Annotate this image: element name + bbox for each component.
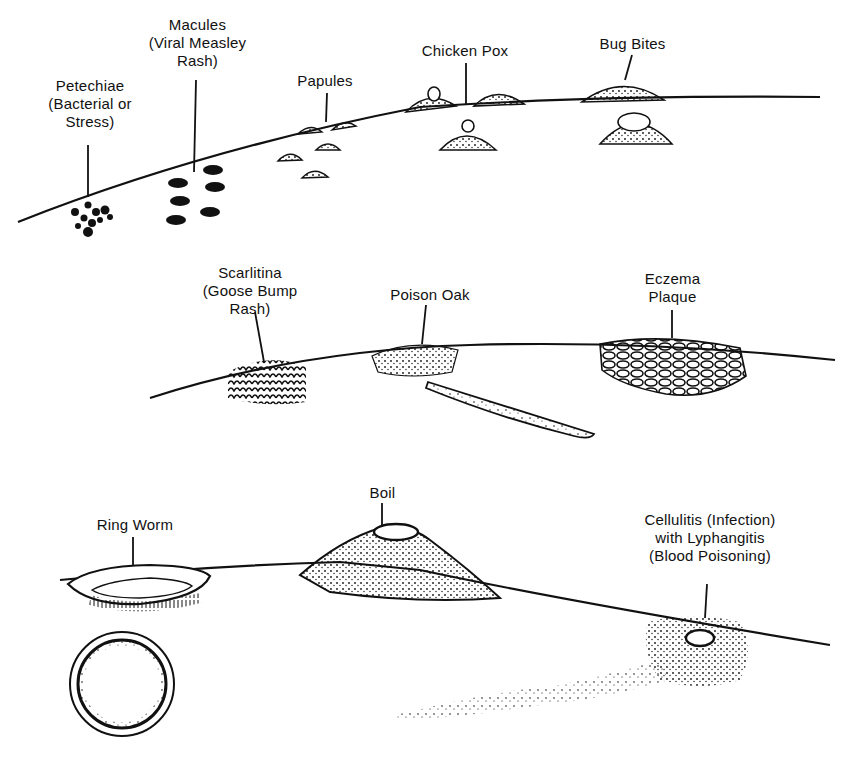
scarlitina-texture bbox=[228, 360, 306, 404]
boil-lesion bbox=[300, 524, 500, 600]
bug-bites-bumps bbox=[582, 86, 672, 144]
label-chicken-pox: Chicken Pox bbox=[405, 42, 525, 60]
label-petechiae: Petechiae (Bacterial or Stress) bbox=[30, 77, 150, 131]
chicken-pox-bumps bbox=[406, 87, 524, 150]
label-bug-bites: Bug Bites bbox=[590, 35, 675, 53]
cellulitis-lesion bbox=[395, 616, 748, 720]
papules-bumps bbox=[278, 123, 356, 178]
lymphangitis-streak bbox=[395, 660, 668, 720]
label-boil: Boil bbox=[355, 484, 410, 502]
label-eczema: Eczema Plaque bbox=[630, 270, 715, 306]
label-poison-oak: Poison Oak bbox=[380, 286, 480, 304]
macules-spots bbox=[166, 165, 225, 225]
middle-panel bbox=[150, 305, 835, 438]
label-ring-worm: Ring Worm bbox=[80, 516, 190, 534]
label-cellulitis: Cellulitis (Infection) with Lyphangitis … bbox=[610, 511, 810, 565]
label-scarlitina: Scarlitina (Goose Bump Rash) bbox=[190, 264, 310, 318]
petechiae-dots bbox=[71, 202, 113, 238]
poison-oak-streak bbox=[426, 382, 594, 438]
eczema-plaque bbox=[600, 339, 746, 395]
label-papules: Papules bbox=[285, 72, 365, 90]
ring-worm-lesion bbox=[68, 565, 210, 736]
label-macules: Macules (Viral Measley Rash) bbox=[135, 16, 260, 70]
